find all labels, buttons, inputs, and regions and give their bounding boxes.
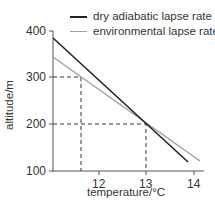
y-tick-200: 200 (26, 117, 46, 131)
legend-swatch-env (70, 31, 87, 32)
legend-label-dry: dry adiabatic lapse rate (93, 9, 212, 24)
legend-label-env: environmental lapse rate (93, 24, 215, 39)
dry-adiabatic-lapse-rate-line (53, 38, 188, 162)
x-tick-14: 14 (187, 177, 200, 191)
x-ticks (99, 171, 194, 175)
legend-item-dry: dry adiabatic lapse rate (70, 9, 215, 24)
legend: dry adiabatic lapse rate environmental l… (70, 9, 215, 39)
environmental-lapse-rate-line (53, 57, 200, 161)
dashed-guides (53, 77, 146, 171)
legend-swatch-dry (70, 16, 87, 18)
y-tick-100: 100 (26, 164, 46, 178)
y-axis-label: altitude/m (3, 80, 15, 130)
y-tick-300: 300 (26, 70, 46, 84)
y-tick-400: 400 (26, 24, 46, 38)
y-ticks (49, 31, 53, 124)
x-axis-label: temperature/°C (87, 186, 165, 198)
legend-item-env: environmental lapse rate (70, 24, 215, 39)
